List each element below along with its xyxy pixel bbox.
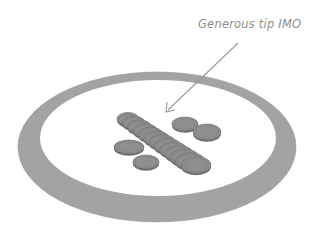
coin-face	[193, 124, 221, 140]
coin	[193, 124, 221, 142]
plate-illustration	[0, 0, 320, 236]
coin	[181, 157, 211, 176]
coin-face	[133, 155, 159, 169]
coin-face	[181, 157, 211, 174]
coin	[114, 140, 144, 156]
coin-face	[114, 140, 144, 154]
coin	[133, 155, 159, 171]
